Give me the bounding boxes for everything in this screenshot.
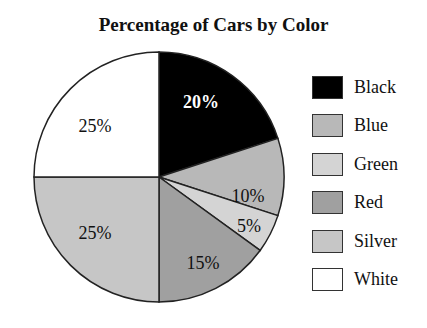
legend-item-green: Green <box>312 145 398 184</box>
swatch-green <box>312 153 343 176</box>
slice-label-red: 15% <box>187 253 220 273</box>
swatch-red <box>312 191 343 214</box>
legend-item-red: Red <box>312 184 398 223</box>
slice-label-black: 20% <box>183 92 219 112</box>
slice-white <box>34 52 159 177</box>
legend-item-black: Black <box>312 68 398 107</box>
slice-label-blue: 10% <box>232 186 265 206</box>
swatch-black <box>312 76 343 99</box>
slice-label-white: 25% <box>79 116 112 136</box>
slice-label-green: 5% <box>237 216 261 236</box>
swatch-blue <box>312 114 343 137</box>
legend-item-white: White <box>312 261 398 300</box>
swatch-white <box>312 268 343 291</box>
legend-item-silver: Silver <box>312 222 398 261</box>
swatch-silver <box>312 230 343 253</box>
slice-label-silver: 25% <box>79 223 112 243</box>
legend: Black Blue Green Red Silver White <box>312 68 398 299</box>
legend-item-blue: Blue <box>312 107 398 146</box>
